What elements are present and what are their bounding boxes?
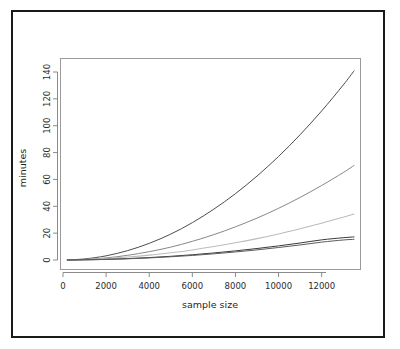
plot-panel-border — [61, 59, 361, 270]
figure-root: 020406080100120140 020004000600080001000… — [0, 0, 400, 349]
x-tick-marks — [63, 273, 322, 278]
x-tick-label: 10000 — [265, 281, 292, 291]
y-tick-label: 80 — [42, 147, 52, 158]
y-tick-marks — [53, 72, 58, 260]
y-tick-label: 60 — [42, 174, 52, 185]
x-tick-labels: 020004000600080001000012000 — [60, 281, 335, 291]
y-tick-label: 40 — [42, 201, 52, 212]
y-tick-label: 120 — [42, 91, 52, 107]
y-tick-label: 0 — [42, 257, 52, 262]
curve-5 — [67, 239, 354, 260]
chart-canvas: 020406080100120140 020004000600080001000… — [0, 0, 400, 349]
x-axis: 020004000600080001000012000 — [60, 273, 335, 292]
y-tick-label: 140 — [42, 64, 52, 80]
data-series-group — [67, 71, 354, 260]
x-tick-label: 12000 — [308, 281, 335, 291]
x-tick-label: 6000 — [182, 281, 204, 291]
x-tick-label: 8000 — [225, 281, 247, 291]
y-tick-label: 100 — [42, 118, 52, 134]
x-tick-label: 4000 — [138, 281, 160, 291]
curve-2 — [67, 165, 354, 259]
curve-1 — [67, 71, 354, 260]
y-axis-title: minutes — [17, 149, 28, 188]
curve-4 — [67, 237, 354, 260]
y-tick-label: 20 — [42, 228, 52, 239]
x-tick-label: 2000 — [95, 281, 117, 291]
x-axis-title: sample size — [182, 299, 238, 310]
y-axis: 020406080100120140 — [42, 64, 58, 263]
y-tick-labels: 020406080100120140 — [42, 64, 52, 263]
x-tick-label: 0 — [60, 281, 65, 291]
